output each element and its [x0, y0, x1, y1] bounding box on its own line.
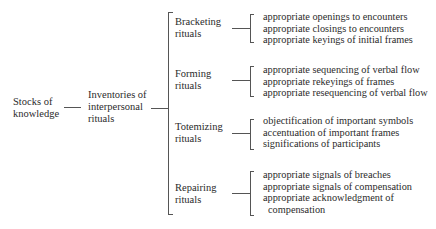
branch-forming-rituals: Forming rituals [175, 68, 211, 92]
connector-middle-to-bracket [151, 108, 168, 109]
branch-label-line2: rituals [175, 80, 211, 92]
branch-label-line1: Totemizing [175, 121, 223, 133]
bracket-bracketing-top [250, 14, 254, 15]
leaf-item: appropriate acknowledgment of [263, 192, 412, 204]
connector-repairing [232, 193, 250, 194]
bracket-forming-bottom [250, 96, 254, 97]
middle-label-line2: interpersonal [88, 101, 147, 113]
root-node-stocks-of-knowledge: Stocks of knowledge [13, 96, 59, 120]
totemizing-items: objectification of important symbols acc… [263, 115, 413, 150]
branch-totemizing-rituals: Totemizing rituals [175, 121, 223, 145]
leaf-item: appropriate signals of breaches [263, 169, 412, 181]
branch-label-line2: rituals [175, 28, 221, 40]
middle-node-inventories: Inventories of interpersonal rituals [88, 89, 147, 125]
bracket-totemizing-top [250, 119, 254, 120]
bracket-forming-top [250, 66, 254, 67]
branch-label-line1: Bracketing [175, 16, 221, 28]
forming-items: appropriate sequencing of verbal flow ap… [263, 64, 428, 99]
repairing-items: appropriate signals of breaches appropri… [263, 169, 412, 215]
connector-totemizing [232, 133, 250, 134]
leaf-item: appropriate closings to encounters [263, 23, 413, 35]
branch-label-line2: rituals [175, 133, 223, 145]
leaf-item: appropriate sequencing of verbal flow [263, 64, 428, 76]
leaf-item: appropriate signals of compensation [263, 181, 412, 193]
bracket-bracketing-vertical [250, 14, 251, 43]
middle-label-line3: rituals [88, 113, 147, 125]
root-label-line2: knowledge [13, 108, 59, 120]
branch-repairing-rituals: Repairing rituals [175, 182, 216, 206]
connector-bracketing [232, 28, 250, 29]
bracket-totemizing-bottom [250, 149, 254, 150]
main-bracket-top-tick [168, 12, 173, 13]
branch-label-line1: Repairing [175, 182, 216, 194]
leaf-item: appropriate rekeyings of frames [263, 76, 428, 88]
root-label-line1: Stocks of [13, 96, 59, 108]
bracketing-items: appropriate openings to encounters appro… [263, 11, 413, 46]
leaf-item: significations of participants [263, 138, 413, 150]
branch-label-line1: Forming [175, 68, 211, 80]
connector-root-to-middle [64, 107, 81, 108]
bracket-repairing-top [250, 171, 254, 172]
bracket-repairing-vertical [250, 171, 251, 216]
leaf-item: accentuation of important frames [263, 127, 413, 139]
bracket-forming-vertical [250, 66, 251, 97]
branch-label-line2: rituals [175, 194, 216, 206]
middle-label-line1: Inventories of [88, 89, 147, 101]
main-bracket-bottom-tick [168, 214, 173, 215]
bracket-repairing-bottom [250, 215, 254, 216]
connector-forming [232, 80, 250, 81]
leaf-item: appropriate keyings of initial frames [263, 34, 413, 46]
bracket-bracketing-bottom [250, 42, 254, 43]
leaf-item: compensation [263, 204, 412, 216]
main-bracket-vertical [168, 12, 169, 215]
branch-bracketing-rituals: Bracketing rituals [175, 16, 221, 40]
bracket-totemizing-vertical [250, 119, 251, 150]
leaf-item: objectification of important symbols [263, 115, 413, 127]
leaf-item: appropriate openings to encounters [263, 11, 413, 23]
leaf-item: appropriate resequencing of verbal flow [263, 87, 428, 99]
